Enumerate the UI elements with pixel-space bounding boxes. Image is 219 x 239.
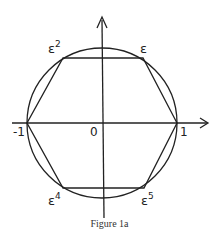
label-origin: 0 xyxy=(90,126,98,138)
label-eps5: ε5 xyxy=(141,192,154,207)
label-eps5-base: ε xyxy=(141,193,148,208)
label-eps2-base: ε xyxy=(48,41,55,56)
figure-caption: Figure 1a xyxy=(0,218,219,229)
label-eps2: ε2 xyxy=(48,40,61,55)
label-eps4-exp: 4 xyxy=(55,191,61,201)
unit-circle-diagram xyxy=(0,0,219,239)
label-eps5-exp: 5 xyxy=(148,191,154,201)
label-eps1: ε xyxy=(140,42,147,55)
label-one: 1 xyxy=(180,126,188,138)
label-eps4-base: ε xyxy=(48,193,55,208)
label-eps2-exp: 2 xyxy=(55,39,61,49)
label-minus-one: -1 xyxy=(13,126,25,138)
label-eps4: ε4 xyxy=(48,192,61,207)
label-eps1-base: ε xyxy=(140,41,147,56)
